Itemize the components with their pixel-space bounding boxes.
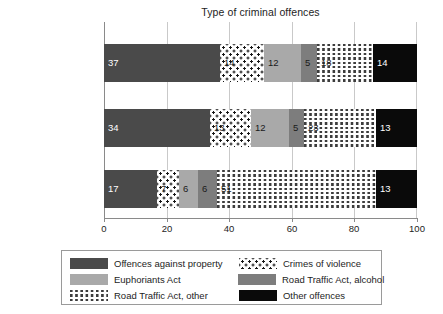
x-tick-label: 40: [224, 223, 235, 234]
bar-segment-alcohol: 5: [301, 44, 317, 82]
legend-row: Offences against propertyCrimes of viole…: [62, 255, 381, 271]
x-tick-mark: [229, 218, 230, 222]
legend-item-road-traffic-act-other[interactable]: Road Traffic Act, other: [62, 290, 237, 301]
bar-value-label: 5: [293, 123, 298, 133]
bar-segment-property: 17: [104, 170, 157, 208]
chart-legend: Offences against propertyCrimes of viole…: [61, 250, 382, 305]
legend-label: Road Traffic Act, other: [114, 290, 208, 301]
swatch-violence-icon: [239, 258, 277, 269]
bar-value-label: 23: [308, 123, 319, 133]
bar-value-label: 14: [377, 58, 388, 68]
bar-diagnosed-adults: 37141251814: [0, 44, 443, 82]
bar-value-label: 34: [108, 123, 119, 133]
bar-segment-property: 37: [104, 44, 220, 82]
legend-row: Road Traffic Act, otherOther offences: [62, 287, 381, 303]
bar-value-label: 18: [321, 58, 332, 68]
bar-chart: Type of criminal offences 020406080100 D…: [0, 0, 443, 314]
bar-segment-rtother: 23: [304, 109, 376, 147]
x-tick-label: 60: [287, 223, 298, 234]
legend-label: Other offences: [283, 290, 345, 301]
bar-value-label: 14: [224, 58, 235, 68]
bar-segment-violence: 13: [210, 109, 251, 147]
x-tick-label: 100: [409, 223, 425, 234]
bar-value-label: 7: [161, 184, 166, 194]
legend-item-crimes-of-violence[interactable]: Crimes of violence: [237, 258, 381, 269]
bar-value-label: 17: [108, 184, 119, 194]
legend-label: Road Traffic Act, alcohol: [282, 274, 384, 285]
bar-segment-euphoriants: 12: [251, 109, 289, 147]
swatch-rtother-icon: [70, 290, 108, 301]
legend-row: Euphoriants ActRoad Traffic Act, alcohol: [62, 271, 381, 287]
bar-segment-other: 14: [373, 44, 417, 82]
x-tick-mark: [354, 218, 355, 222]
legend-item-offences-against-property[interactable]: Offences against property: [62, 258, 237, 269]
bar-segment-property: 34: [104, 109, 210, 147]
swatch-other-icon: [239, 290, 277, 301]
legend-label: Euphoriants Act: [114, 274, 181, 285]
bar-population: 177665113: [0, 170, 443, 208]
bar-segment-violence: 7: [157, 170, 179, 208]
bar-value-label: 6: [183, 184, 188, 194]
bar-value-label: 12: [255, 123, 266, 133]
bar-segment-rtother: 51: [217, 170, 377, 208]
x-tick-mark: [292, 218, 293, 222]
legend-item-euphoriants-act[interactable]: Euphoriants Act: [62, 274, 236, 285]
bar-prescribed-adults: 34131252313: [0, 109, 443, 147]
x-tick-mark: [167, 218, 168, 222]
bar-segment-alcohol: 6: [198, 170, 217, 208]
legend-label: Crimes of violence: [283, 258, 361, 269]
bar-segment-alcohol: 5: [289, 109, 305, 147]
bar-value-label: 5: [305, 58, 310, 68]
bar-segment-other: 13: [376, 170, 417, 208]
x-axis-line: [104, 218, 418, 219]
chart-title: Type of criminal offences: [104, 6, 417, 18]
legend-item-other-offences[interactable]: Other offences: [237, 290, 381, 301]
bar-value-label: 13: [214, 123, 225, 133]
x-tick-mark: [104, 218, 105, 222]
bar-value-label: 13: [380, 123, 391, 133]
bar-segment-rtother: 18: [317, 44, 373, 82]
bar-segment-euphoriants: 12: [264, 44, 302, 82]
x-tick-label: 80: [349, 223, 360, 234]
bar-value-label: 12: [268, 58, 279, 68]
x-tick-mark: [417, 218, 418, 222]
bar-segment-violence: 14: [220, 44, 264, 82]
legend-label: Offences against property: [114, 258, 223, 269]
bar-segment-other: 13: [376, 109, 417, 147]
bar-value-label: 37: [108, 58, 119, 68]
swatch-euphoriants-icon: [70, 274, 108, 285]
x-tick-label: 0: [101, 223, 106, 234]
bar-segment-euphoriants: 6: [179, 170, 198, 208]
bar-value-label: 51: [221, 184, 232, 194]
swatch-alcohol-icon: [238, 274, 276, 285]
bar-value-label: 13: [380, 184, 391, 194]
x-tick-label: 20: [162, 223, 173, 234]
swatch-property-icon: [70, 258, 108, 269]
legend-item-road-traffic-act-alcohol[interactable]: Road Traffic Act, alcohol: [236, 274, 381, 285]
bar-value-label: 6: [202, 184, 207, 194]
